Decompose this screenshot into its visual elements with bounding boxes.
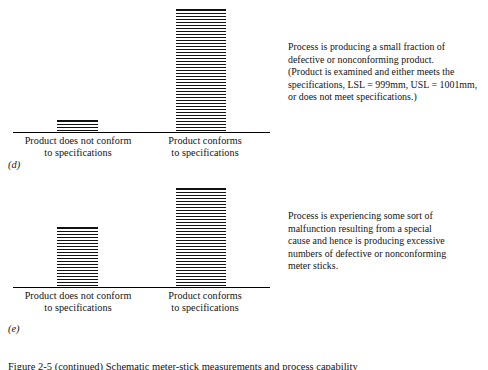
panel-letter-e: (e) bbox=[8, 323, 20, 334]
description-e: Process is experiencing some sort of mal… bbox=[288, 210, 488, 273]
figure-root: Product does not conform to specificatio… bbox=[0, 0, 488, 370]
bar-e-conforming bbox=[176, 188, 226, 288]
panel-e-chart: Product does not conform to specificatio… bbox=[0, 180, 280, 340]
panel-e: Product does not conform to specificatio… bbox=[0, 180, 488, 360]
category-label-e-nonconforming: Product does not conform to specificatio… bbox=[12, 290, 144, 315]
bar-d-conforming bbox=[176, 9, 226, 133]
category-label-e-conforming: Product conforms to specifications bbox=[150, 290, 260, 315]
bar-e-nonconforming bbox=[57, 227, 98, 288]
description-d: Process is producing a small fraction of… bbox=[288, 41, 488, 104]
category-label-d-nonconforming: Product does not conform to specificatio… bbox=[12, 135, 144, 160]
axis-baseline-d bbox=[13, 132, 270, 133]
category-label-d-conforming: Product conforms to specifications bbox=[150, 135, 260, 160]
panel-d: Product does not conform to specificatio… bbox=[0, 0, 488, 180]
panel-letter-d: (d) bbox=[8, 159, 20, 170]
figure-caption: Figure 2-5 (continued) Schematic meter-s… bbox=[8, 360, 486, 370]
axis-baseline-e bbox=[13, 287, 270, 288]
panel-d-chart: Product does not conform to specificatio… bbox=[0, 0, 280, 160]
